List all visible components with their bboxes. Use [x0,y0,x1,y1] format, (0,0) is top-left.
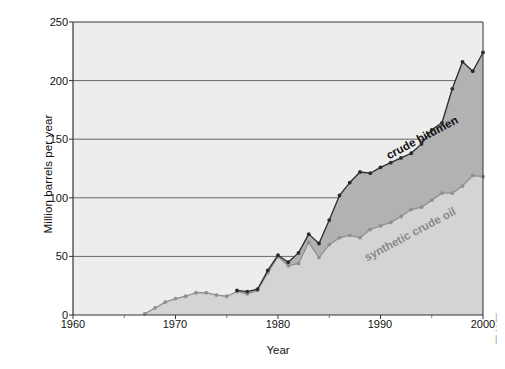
datapoint-crude-bitumen-1977 [245,290,249,294]
datapoint-crude-bitumen-1985 [327,218,331,222]
datapoint-crude-bitumen-1989 [368,171,372,175]
datapoint-crude-bitumen-1983 [307,232,311,236]
datapoint-synthetic-crude-oil-1995 [430,198,434,202]
datapoint-synthetic-crude-oil-1974 [215,293,219,297]
x-tick-1970: 1970 [145,318,205,330]
y-tick-250: 250 [28,16,68,28]
datapoint-crude-bitumen-1982 [297,251,301,255]
datapoint-synthetic-crude-oil-1971 [184,294,188,298]
datapoint-crude-bitumen-1992 [399,156,403,160]
datapoint-crude-bitumen-1976 [235,288,239,292]
datapoint-synthetic-crude-oil-1988 [358,236,362,240]
datapoint-synthetic-crude-oil-1984 [317,256,321,260]
datapoint-synthetic-crude-oil-1982 [297,262,301,266]
datapoint-synthetic-crude-oil-1996 [440,191,444,195]
datapoint-synthetic-crude-oil-1991 [389,221,393,225]
datapoint-crude-bitumen-1999 [471,69,475,73]
datapoint-synthetic-crude-oil-1998 [461,184,465,188]
datapoint-synthetic-crude-oil-1968 [153,306,157,310]
datapoint-crude-bitumen-1986 [338,194,342,198]
datapoint-synthetic-crude-oil-1985 [327,243,331,247]
datapoint-crude-bitumen-1987 [348,181,352,185]
datapoint-crude-bitumen-1990 [379,165,383,169]
datapoint-synthetic-crude-oil-1987 [348,233,352,237]
datapoint-synthetic-crude-oil-1992 [399,215,403,219]
y-axis-tick-labels: 250 200 150 100 50 0 [22,0,68,369]
datapoint-synthetic-crude-oil-1975 [225,294,229,298]
datapoint-synthetic-crude-oil-1990 [379,224,383,228]
datapoint-synthetic-crude-oil-1973 [204,291,208,295]
datapoint-crude-bitumen-1997 [450,87,454,91]
y-tick-200: 200 [28,75,68,87]
chart-plot-area [0,0,505,369]
datapoint-synthetic-crude-oil-1972 [194,291,198,295]
y-tick-150: 150 [28,133,68,145]
x-axis-title: Year [73,344,483,356]
datapoint-synthetic-crude-oil-1997 [450,191,454,195]
datapoint-crude-bitumen-1980 [276,253,280,257]
datapoint-crude-bitumen-1979 [266,269,270,273]
datapoint-crude-bitumen-1978 [256,287,260,291]
datapoint-synthetic-crude-oil-1993 [409,208,413,212]
datapoint-crude-bitumen-1993 [409,151,413,155]
datapoint-synthetic-crude-oil-1999 [471,174,475,178]
datapoint-crude-bitumen-1998 [461,60,465,64]
datapoint-synthetic-crude-oil-1983 [307,240,311,244]
x-tick-1980: 1980 [248,318,308,330]
datapoint-synthetic-crude-oil-1970 [174,297,178,301]
chart-figure: Million barrels per year 250 200 150 100… [0,0,505,369]
y-tick-100: 100 [28,192,68,204]
datapoint-synthetic-crude-oil-1969 [163,300,167,304]
datapoint-crude-bitumen-1981 [286,260,290,264]
x-tick-1990: 1990 [350,318,410,330]
datapoint-synthetic-crude-oil-1989 [368,228,372,232]
x-tick-1960: 1960 [43,318,103,330]
datapoint-synthetic-crude-oil-1981 [286,264,290,268]
datapoint-crude-bitumen-1988 [358,170,362,174]
datapoint-crude-bitumen-1984 [317,242,321,246]
datapoint-synthetic-crude-oil-1986 [338,236,342,240]
datapoint-synthetic-crude-oil-1994 [420,205,424,209]
scan-edge-artifact: |:| [495,312,498,358]
y-tick-50: 50 [28,250,68,262]
